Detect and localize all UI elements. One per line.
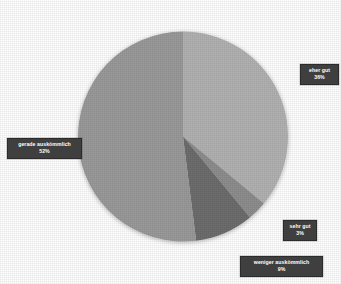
pie-label-weniger-auskoemmlich-category: weniger auskömmlich [244,259,319,266]
pie-label-gerade-auskoemmlich-value: 52% [11,148,78,155]
pie-label-eher-gut-value: 36% [304,74,335,81]
pie-chart-figure: eher gut 36% gerade auskömmlich 52% sehr… [0,0,341,284]
pie-label-weniger-auskoemmlich: weniger auskömmlich 9% [240,256,323,277]
pie-label-eher-gut-category: eher gut [304,67,335,74]
pie-label-gerade-auskoemmlich-category: gerade auskömmlich [11,141,78,148]
pie-label-sehr-gut-category: sehr gut [287,223,313,230]
pie-label-sehr-gut-value: 3% [287,230,313,237]
pie-label-eher-gut: eher gut 36% [300,64,339,85]
pie-label-sehr-gut: sehr gut 3% [283,220,317,241]
pie-slice-gerade-auskoemmlich [78,31,196,241]
pie-slices-group [78,31,288,241]
pie-label-weniger-auskoemmlich-value: 9% [244,266,319,273]
pie-label-gerade-auskoemmlich: gerade auskömmlich 52% [7,138,82,159]
